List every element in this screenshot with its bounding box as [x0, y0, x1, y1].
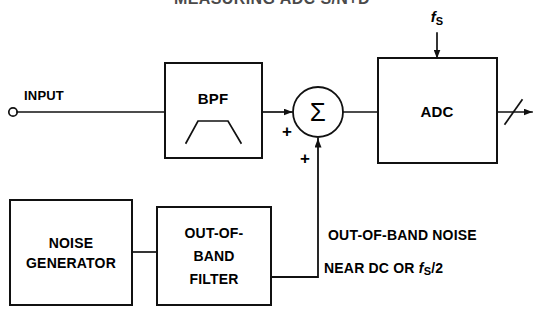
noise-generator-label-line1: NOISE [49, 235, 94, 252]
wire-noise-to-sum [271, 139, 318, 277]
bpf-block-outline [165, 63, 262, 158]
sum-input-left-plus-sign: + [282, 122, 292, 142]
noise-generator-label-line2: GENERATOR [26, 255, 116, 272]
diagram-canvas: MEASURING ADC S/N+D [0, 0, 544, 320]
input-label: INPUT [24, 88, 64, 103]
annotation-out-of-band-noise: OUT-OF-BAND NOISE [328, 227, 477, 244]
bpf-block-label: BPF [198, 90, 229, 108]
annotation-near-dc-or-fs-over-2: NEAR DC OR fS/2 [324, 260, 443, 278]
out-of-band-filter-label-line2: BAND [193, 248, 234, 265]
input-terminal-icon [9, 108, 17, 116]
summing-junction-sigma-icon: Σ [310, 97, 326, 128]
out-of-band-filter-label-line1: OUT-OF- [185, 225, 244, 242]
noise-generator-block-outline [10, 200, 132, 305]
out-of-band-filter-label-line3: FILTER [189, 271, 238, 288]
annotation-suffix: /2 [431, 260, 443, 276]
annotation-prefix: NEAR DC OR [324, 260, 419, 276]
adc-block-label: ADC [420, 103, 453, 121]
sampling-clock-label: fS [431, 8, 444, 27]
sum-input-bottom-plus-sign: + [300, 149, 310, 169]
diagram-vector-layer [0, 0, 544, 320]
clock-s-subscript: S [436, 15, 444, 27]
